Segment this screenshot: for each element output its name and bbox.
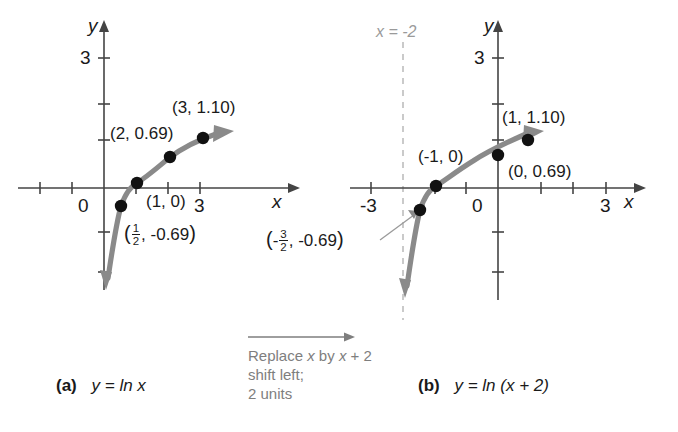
point-label-half-y: , -0.69 [141,225,189,244]
panel-b-svg [338,0,678,432]
y-tick-label-3: 3 [80,48,91,67]
caption-formula-a: y = ln x [92,376,146,395]
y-axis-label: y [88,16,98,35]
x-axis-label: x [272,192,282,211]
y-axis-arrowhead [493,20,503,32]
paren-close: ) [189,222,196,244]
paren-close: ) [337,228,344,250]
point-label-half: (12, -0.69) [124,222,196,247]
fraction-denominator: 2 [279,241,287,253]
data-point-three [197,132,209,144]
x-tick-label-3: 3 [600,196,611,215]
data-point-zero [492,149,504,161]
fraction-three-halves: 32 [279,228,287,253]
fraction-numerator: 3 [279,228,287,241]
data-point-two [164,151,176,163]
half-y-value: -0.69 [151,225,190,244]
three-halves-y-value: -0.69 [298,231,337,250]
paren-open: ( [266,228,273,250]
y-axis-arrowhead [99,20,109,32]
fraction-sign: - [273,231,279,250]
panel-b-graph-ln-x-plus-2: x = -2 y x -3 0 3 3 (-1, 0) (1, 1.10) (0… [338,0,678,432]
data-point-one [522,134,534,146]
caption-marker-a: (a) [56,376,77,395]
curve-arrowhead-down [100,270,112,290]
fraction-denominator: 2 [132,235,140,247]
x-tick-label-neg3: -3 [360,196,377,215]
transform-mid: by [315,347,339,364]
data-point-neg-three-halves [414,204,426,216]
transform-prefix: Replace [248,347,307,364]
fraction-one-half: 12 [132,222,140,247]
caption-panel-b: (b) y = ln (x + 2) [418,377,549,394]
logarithm-shift-figure: y x 0 3 3 (2, 0.69) (3, 1.10) (1, 0) (12… [0,0,678,432]
caption-formula-b: y = ln (x + 2) [454,376,548,395]
y-tick-label-3: 3 [474,48,485,67]
asymptote-label: x = -2 [376,24,416,40]
caption-panel-a: (a) y = ln x [56,377,146,394]
data-point-neg-one [430,180,442,192]
origin-label: 0 [78,196,89,215]
data-point-half [115,200,127,212]
y-axis-label: y [484,16,494,35]
point-label-three: (3, 1.10) [172,99,235,116]
x-tick-label-3: 3 [194,196,205,215]
origin-label: 0 [472,196,483,215]
point-label-one: (1, 1.10) [502,109,565,126]
fraction-numerator: 1 [132,222,140,235]
point-label-zero: (0, 0.69) [508,163,571,180]
x-axis-arrowhead [634,183,646,193]
data-point-one [131,177,143,189]
transform-var: x [307,347,315,364]
caption-marker-b: (b) [418,376,440,395]
x-axis-arrowhead [288,183,300,193]
paren-open: ( [124,222,131,244]
x-axis-label: x [624,192,634,211]
point-label-neg-three-halves: (-32, -0.69) [266,228,344,253]
curve-arrowhead-right [213,125,234,142]
point-label-two: (2, 0.69) [110,125,173,142]
point-label-one-zero: (1, 0) [146,193,186,210]
curve-arrowhead-down [399,278,411,298]
point-label-neg-one-zero: (-1, 0) [418,148,463,165]
point-label-three-halves-y: , -0.69 [289,231,337,250]
